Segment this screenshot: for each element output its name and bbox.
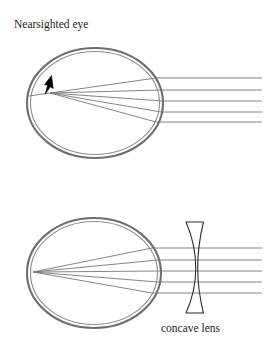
figure-background xyxy=(0,0,270,344)
concave-lens-label-text: concave lens xyxy=(161,322,221,334)
page-title: Nearsighted eye xyxy=(14,18,88,31)
concave-lens-label: concave lens xyxy=(161,322,221,334)
optics-figure: Nearsighted eye concave lens xyxy=(0,0,270,344)
page-title-text: Nearsighted eye xyxy=(14,18,88,31)
